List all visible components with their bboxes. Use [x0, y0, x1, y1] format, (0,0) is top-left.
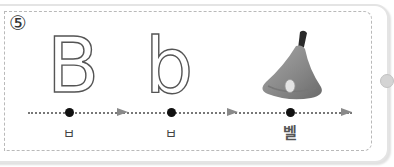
lowercase-letter-outline: b: [145, 28, 193, 104]
sequence-label: ㅂ: [63, 123, 75, 142]
exercise-number: ⑤: [9, 13, 27, 33]
bell-icon: [256, 28, 326, 102]
sequence-dot: [167, 108, 176, 117]
arrow-right-icon: [341, 108, 352, 116]
arrow-right-icon: [117, 108, 128, 116]
sequence-label-word: 벨: [283, 121, 297, 142]
sequence-dot: [286, 108, 295, 117]
page-tab-knob: [380, 74, 394, 88]
sequence-dot: [65, 108, 74, 117]
arrow-right-icon: [227, 108, 238, 116]
sequence-label: ㅂ: [165, 123, 177, 142]
uppercase-letter-outline: B: [47, 28, 99, 104]
dotted-timeline: [28, 112, 352, 114]
